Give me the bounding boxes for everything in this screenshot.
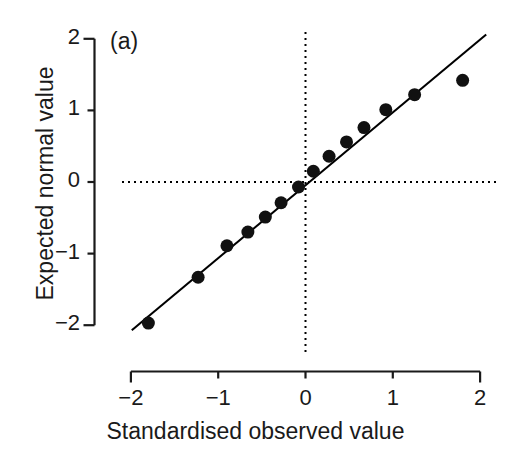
- plot-canvas: [0, 0, 511, 456]
- x-tick-label: 2: [450, 385, 510, 411]
- panel-label: (a): [110, 28, 138, 55]
- data-point: [142, 317, 155, 330]
- data-point: [379, 103, 392, 116]
- data-point: [241, 226, 254, 239]
- data-point: [220, 239, 233, 252]
- y-axis-title: Expected normal value: [32, 19, 59, 349]
- data-point: [259, 211, 272, 224]
- x-tick-label: 1: [363, 385, 423, 411]
- data-point: [192, 271, 205, 284]
- x-tick-label: −1: [188, 385, 248, 411]
- data-point: [456, 74, 469, 87]
- data-point: [340, 135, 353, 148]
- data-point: [275, 196, 288, 209]
- fit-line-segment: [132, 35, 486, 331]
- x-tick-label: −2: [101, 385, 161, 411]
- qq-plot-figure: −2−1012−2−1012 (a) Standardised observed…: [0, 0, 511, 456]
- fit-line: [132, 35, 486, 331]
- x-axis-title: Standardised observed value: [0, 418, 511, 445]
- x-tick-label: 0: [276, 385, 336, 411]
- data-point: [408, 88, 421, 101]
- data-point: [307, 165, 320, 178]
- data-point: [323, 150, 336, 163]
- zero-reference-lines: [122, 32, 498, 355]
- data-point: [292, 181, 305, 194]
- data-point: [357, 121, 370, 134]
